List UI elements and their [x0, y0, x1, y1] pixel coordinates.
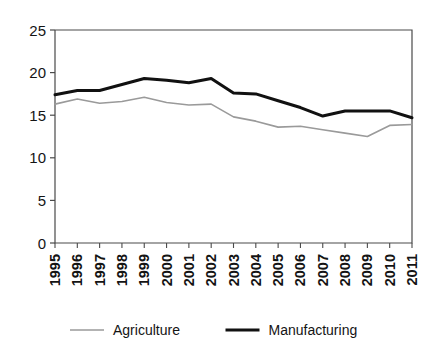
x-tick-label-2010: 2010 — [382, 254, 398, 286]
x-tick-label-2009: 2009 — [359, 254, 375, 286]
x-tick-label-1996: 1996 — [69, 254, 85, 286]
x-tick-label-2008: 2008 — [337, 254, 353, 286]
y-tick-label-0: 0 — [38, 235, 46, 252]
chart-background — [0, 0, 436, 358]
x-tick-label-1999: 1999 — [136, 254, 152, 286]
x-tick-label-2004: 2004 — [248, 254, 264, 286]
y-tick-label-20: 20 — [29, 64, 46, 81]
x-tick-label-2006: 2006 — [292, 254, 308, 286]
x-tick-label-1998: 1998 — [114, 254, 130, 286]
x-tick-label-2001: 2001 — [181, 254, 197, 286]
x-axis-tick-labels: 1995199619971998199920002001200220032004… — [47, 254, 420, 286]
x-tick-label-2002: 2002 — [203, 254, 219, 286]
y-tick-label-25: 25 — [29, 22, 46, 39]
legend-label-manufacturing: Manufacturing — [269, 322, 358, 338]
line-chart: 0510152025 19951996199719981999200020012… — [0, 0, 436, 358]
x-tick-label-2003: 2003 — [226, 254, 242, 286]
legend-label-agriculture: Agriculture — [113, 322, 180, 338]
x-tick-label-1997: 1997 — [92, 254, 108, 286]
chart-canvas: 0510152025 19951996199719981999200020012… — [0, 0, 436, 358]
x-tick-label-1995: 1995 — [47, 254, 63, 286]
x-tick-label-2007: 2007 — [315, 254, 331, 286]
y-tick-label-5: 5 — [38, 192, 46, 209]
x-tick-label-2005: 2005 — [270, 254, 286, 286]
x-tick-label-2011: 2011 — [404, 254, 420, 285]
x-tick-label-2000: 2000 — [159, 254, 175, 286]
y-tick-label-15: 15 — [29, 107, 46, 124]
y-tick-label-10: 10 — [29, 149, 46, 166]
